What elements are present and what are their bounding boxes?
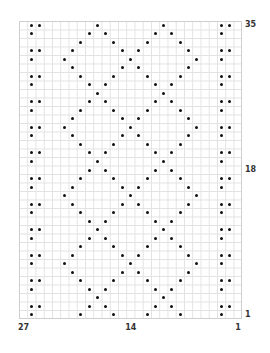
- stitch-dot: [88, 83, 91, 86]
- stitch-dot: [137, 186, 140, 189]
- stitch-dot: [38, 203, 41, 206]
- stitch-dot: [220, 177, 223, 180]
- row-label: 1: [245, 311, 251, 319]
- stitch-dot: [30, 75, 33, 78]
- stitch-dot: [146, 143, 149, 146]
- stitch-dot: [121, 49, 124, 52]
- stitch-dot: [112, 109, 115, 112]
- stitch-dot: [63, 262, 66, 265]
- stitch-dot: [121, 134, 124, 137]
- stitch-dot: [170, 83, 173, 86]
- stitch-dot: [220, 305, 223, 308]
- stitch-dot: [30, 160, 33, 163]
- stitch-dot: [154, 220, 157, 223]
- stitch-dot: [71, 134, 74, 137]
- stitch-dot: [154, 100, 157, 103]
- stitch-dot: [220, 203, 223, 206]
- stitch-dot: [121, 186, 124, 189]
- stitch-dot: [71, 271, 74, 274]
- stitch-dot: [179, 279, 182, 282]
- stitch-dot: [112, 177, 115, 180]
- stitch-dot: [30, 305, 33, 308]
- column-label: 27: [18, 324, 29, 332]
- stitch-dot: [71, 49, 74, 52]
- stitch-dot: [30, 126, 33, 129]
- stitch-dot: [187, 117, 190, 120]
- stitch-dot: [170, 288, 173, 291]
- stitch-dot: [30, 109, 33, 112]
- stitch-dot: [104, 220, 107, 223]
- stitch-dot: [71, 66, 74, 69]
- stitch-dot: [38, 177, 41, 180]
- stitch-dot: [96, 24, 99, 27]
- stitch-dot: [137, 254, 140, 257]
- stitch-dot: [220, 228, 223, 231]
- stitch-dot: [30, 24, 33, 27]
- stitch-dot: [187, 66, 190, 69]
- stitch-dot: [220, 134, 223, 137]
- stitch-dot: [104, 100, 107, 103]
- stitch-dot: [170, 220, 173, 223]
- stitch-dot: [228, 203, 231, 206]
- stitch-dot: [38, 151, 41, 154]
- stitch-dot: [162, 160, 165, 163]
- stitch-dot: [38, 254, 41, 257]
- stitch-dot: [195, 126, 198, 129]
- stitch-dot: [112, 75, 115, 78]
- stitch-dot: [71, 117, 74, 120]
- stitch-dot: [30, 313, 33, 316]
- stitch-dot: [30, 203, 33, 206]
- stitch-dot: [88, 305, 91, 308]
- stitch-dot: [187, 271, 190, 274]
- stitch-dot: [104, 305, 107, 308]
- stitch-dot: [88, 237, 91, 240]
- stitch-dot: [146, 279, 149, 282]
- stitch-dot: [104, 288, 107, 291]
- stitch-dot: [104, 169, 107, 172]
- stitch-dot: [195, 194, 198, 197]
- stitch-dot: [30, 211, 33, 214]
- stitch-dot: [146, 75, 149, 78]
- stitch-dot: [170, 237, 173, 240]
- stitch-dot: [220, 32, 223, 35]
- stitch-dot: [104, 83, 107, 86]
- stitch-dot: [170, 100, 173, 103]
- stitch-dot: [112, 313, 115, 316]
- stitch-dot: [30, 58, 33, 61]
- stitch-dot: [79, 143, 82, 146]
- stitch-dot: [71, 203, 74, 206]
- stitch-dot: [137, 203, 140, 206]
- stitch-dot: [154, 83, 157, 86]
- stitch-dot: [220, 75, 223, 78]
- stitch-dot: [220, 186, 223, 189]
- stitch-chart-grid: [19, 21, 242, 319]
- stitch-dot: [96, 92, 99, 95]
- stitch-dot: [137, 134, 140, 137]
- stitch-dot: [179, 211, 182, 214]
- stitch-dot: [162, 228, 165, 231]
- stitch-dot: [220, 24, 223, 27]
- stitch-dot: [104, 32, 107, 35]
- stitch-dot: [195, 58, 198, 61]
- stitch-dot: [112, 245, 115, 248]
- stitch-dot: [112, 211, 115, 214]
- stitch-dot: [228, 100, 231, 103]
- stitch-dot: [220, 237, 223, 240]
- stitch-dot: [38, 49, 41, 52]
- stitch-dot: [187, 134, 190, 137]
- stitch-dot: [79, 109, 82, 112]
- stitch-dot: [79, 313, 82, 316]
- stitch-dot: [162, 296, 165, 299]
- stitch-dot: [228, 305, 231, 308]
- stitch-dot: [121, 117, 124, 120]
- column-label: 14: [125, 324, 136, 332]
- stitch-dot: [30, 134, 33, 137]
- stitch-dot: [79, 75, 82, 78]
- stitch-dot: [187, 186, 190, 189]
- stitch-dot: [220, 151, 223, 154]
- stitch-dot: [121, 254, 124, 257]
- stitch-dot: [179, 313, 182, 316]
- stitch-dot: [79, 211, 82, 214]
- stitch-dot: [228, 279, 231, 282]
- stitch-dot: [228, 177, 231, 180]
